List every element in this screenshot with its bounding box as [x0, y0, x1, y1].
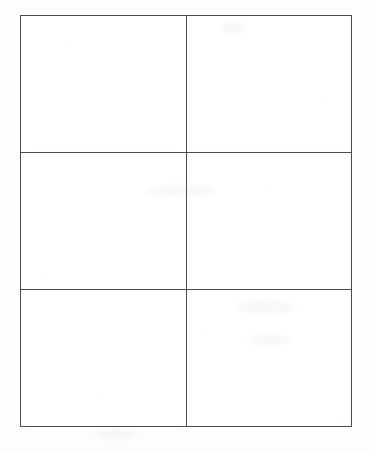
cell-text: [187, 153, 352, 289]
table-row: [21, 290, 352, 427]
grid-table-wrapper: [20, 15, 352, 427]
cell-text: [21, 16, 186, 152]
grid-table-body: [21, 16, 352, 427]
cell-text: [187, 290, 352, 426]
empty-grid-table: [20, 15, 352, 427]
table-row: [21, 153, 352, 290]
table-cell-r0c0[interactable]: [21, 16, 187, 153]
table-cell-r0c1[interactable]: [186, 16, 352, 153]
cell-text: [187, 16, 352, 152]
scan-smudge: [96, 430, 136, 439]
cell-text: [21, 290, 186, 426]
table-cell-r2c1[interactable]: [186, 290, 352, 427]
cell-text: [21, 153, 186, 289]
table-cell-r1c0[interactable]: [21, 153, 187, 290]
table-cell-r1c1[interactable]: [186, 153, 352, 290]
table-cell-r2c0[interactable]: [21, 290, 187, 427]
table-row: [21, 16, 352, 153]
